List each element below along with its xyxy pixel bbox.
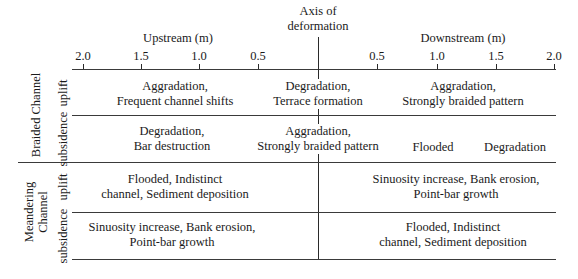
cell-braided-subsidence-flooded: Flooded <box>413 140 454 155</box>
tick-label-up-1.5: 1.5 <box>133 49 149 64</box>
cell-text: Terrace formation <box>273 94 363 109</box>
tick-mark <box>377 64 378 69</box>
cell-text: Degradation, <box>134 124 211 139</box>
cell-meandering-uplift-downstream: Sinuosity increase, Bank erosion, Point-… <box>373 172 540 202</box>
cell-braided-uplift-upstream: Aggradation, Frequent channel shifts <box>117 79 234 109</box>
cell-text: Strongly braided pattern <box>257 139 379 154</box>
tick-mark <box>258 64 259 69</box>
cell-text: Sinuosity increase, Bank erosion, <box>373 172 540 187</box>
downstream-label: Downstream (m) <box>408 31 518 46</box>
cell-braided-subsidence-axis: Aggradation, Strongly braided pattern <box>255 124 381 154</box>
tick-mark <box>554 64 555 69</box>
tick-label-down-1.0: 1.0 <box>429 49 445 64</box>
group-label-braided-channel: Braided Channel <box>29 73 43 157</box>
cell-text: channel, Sediment deposition <box>101 187 249 202</box>
row-label-braided-subsidence: subsidence <box>56 112 70 167</box>
cell-braided-subsidence-degradation: Degradation <box>484 140 546 155</box>
upstream-label: Upstream (m) <box>128 31 228 46</box>
tick-label-down-1.5: 1.5 <box>488 49 504 64</box>
cell-text: Aggradation, <box>117 79 234 94</box>
cell-text: Sinuosity increase, Bank erosion, <box>89 220 256 235</box>
axis-label-line1: Axis of <box>268 4 368 19</box>
tick-mark <box>83 64 84 69</box>
cell-text: Point-bar growth <box>373 187 540 202</box>
cell-meandering-subsidence-downstream: Flooded, Indistinct channel, Sediment de… <box>379 220 527 250</box>
row-label-meandering-subsidence: subsidence <box>56 209 70 264</box>
distance-axis-line <box>72 69 556 70</box>
group-label-meandering-channel: Meandering Channel <box>22 182 50 242</box>
cell-text: Point-bar growth <box>89 235 256 250</box>
cell-braided-uplift-downstream: Aggradation, Strongly braided pattern <box>402 79 524 109</box>
cell-text: Aggradation, <box>402 79 524 94</box>
tick-mark <box>141 64 142 69</box>
axis-of-deformation-label: Axis of deformation <box>268 4 368 34</box>
separator-braided-meandering <box>18 162 556 163</box>
tick-label-up-1.0: 1.0 <box>191 49 207 64</box>
cell-meandering-uplift-upstream: Flooded, Indistinct channel, Sediment de… <box>101 172 249 202</box>
meandering-line2: Channel <box>36 182 50 242</box>
tick-mark <box>437 64 438 69</box>
meandering-line1: Meandering <box>22 182 36 242</box>
axis-label-line2: deformation <box>268 19 368 34</box>
separator-bottom <box>72 259 556 260</box>
tick-label-down-2.0: 2.0 <box>546 49 562 64</box>
cell-text: Aggradation, <box>257 124 379 139</box>
cell-meandering-subsidence-upstream: Sinuosity increase, Bank erosion, Point-… <box>89 220 256 250</box>
separator-meandering-uplift-subsidence <box>72 212 556 213</box>
tick-mark <box>199 64 200 69</box>
cell-text: Bar destruction <box>134 139 211 154</box>
tick-label-up-2.0: 2.0 <box>75 49 91 64</box>
cell-braided-subsidence-upstream: Degradation, Bar destruction <box>134 124 211 154</box>
cell-text: Frequent channel shifts <box>117 94 234 109</box>
separator-braided-uplift-subsidence <box>72 115 556 116</box>
tick-label-up-0.5: 0.5 <box>250 49 266 64</box>
cell-text: Degradation, <box>273 79 363 94</box>
row-label-braided-uplift: uplift <box>56 79 70 106</box>
cell-text: Flooded, Indistinct <box>101 172 249 187</box>
row-label-meandering-uplift: uplift <box>56 173 70 200</box>
tick-label-down-0.5: 0.5 <box>369 49 385 64</box>
cell-text: Flooded, Indistinct <box>379 220 527 235</box>
cell-text: channel, Sediment deposition <box>379 235 527 250</box>
cell-braided-uplift-axis: Degradation, Terrace formation <box>271 79 365 109</box>
cell-text: Strongly braided pattern <box>402 94 524 109</box>
tick-mark <box>496 64 497 69</box>
